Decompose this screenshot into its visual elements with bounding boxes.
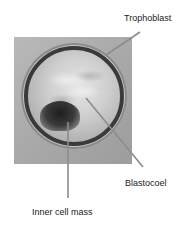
trophoblast-label: Trophoblast: [124, 13, 171, 23]
inner-cell-mass-label: Inner cell mass: [32, 207, 93, 217]
blastocoel-label: Blastocoel: [125, 178, 167, 188]
blastocoel-leader: [86, 98, 143, 167]
trophoblast-leader: [106, 32, 140, 55]
leader-lines: [0, 0, 194, 225]
